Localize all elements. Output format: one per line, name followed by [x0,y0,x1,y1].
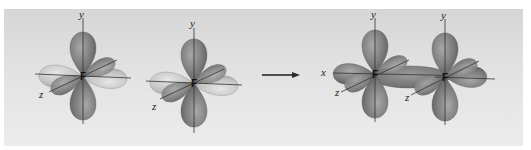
f2-molecule-orbitals: F x y z F y z [320,8,495,125]
y-axis-label: y [440,9,446,21]
z-axis-label: z [151,100,157,112]
f-atom-1-orbitals: F y z [35,8,131,124]
atom-label: F [80,71,86,82]
atom-label: F [442,72,448,83]
z-axis-label: z [334,86,340,98]
f-atom-2-orbitals: F y z [146,17,242,133]
atom-label: F [372,69,378,80]
y-axis-label: y [370,8,376,20]
y-axis-label: y [189,17,195,29]
x-axis-label: x [320,66,326,78]
y-axis-label: y [78,8,84,20]
orbital-overlap-figure: F y z F y z [0,0,531,150]
z-axis-label: z [38,88,44,100]
z-axis-label: z [404,91,410,103]
reaction-arrow-icon [262,72,300,78]
atom-label: F [191,78,197,89]
